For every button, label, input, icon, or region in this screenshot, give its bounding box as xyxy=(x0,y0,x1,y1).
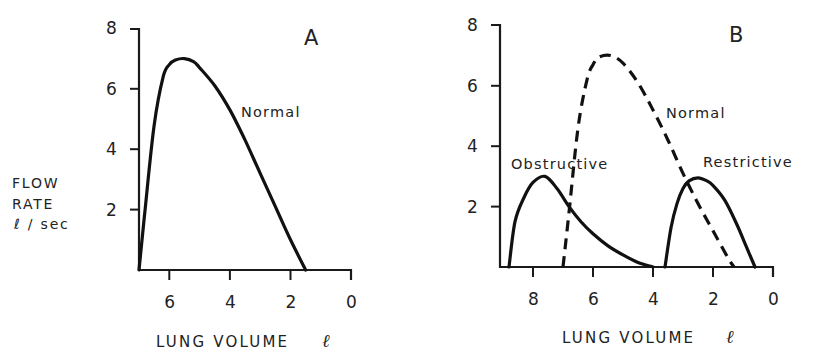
panel-b-axis-lines xyxy=(491,25,773,277)
panel-b: 246886420 B Normal Obstructive Restricti… xyxy=(467,15,793,347)
y-tick-label: 2 xyxy=(467,197,478,217)
flow-volume-figure: FLOW RATE ℓ / sec 24686420 A Normal LUNG… xyxy=(0,0,819,364)
panel-b-obstructive-label: Obstructive xyxy=(511,156,608,172)
y-tick-label: 8 xyxy=(106,18,117,38)
y-tick-label: 4 xyxy=(467,136,478,156)
x-tick-label: 2 xyxy=(708,289,719,309)
panel-a-normal-label: Normal xyxy=(241,104,301,120)
panel-a-curves xyxy=(139,59,306,270)
panel-b-restrictive-label: Restrictive xyxy=(703,154,793,170)
x-tick-label: 4 xyxy=(648,289,659,309)
y-tick-label: 2 xyxy=(106,200,117,220)
panel-b-letter: B xyxy=(729,23,743,47)
y-tick-label: 6 xyxy=(467,76,478,96)
y-axis-title-line-3: ℓ / sec xyxy=(13,216,70,232)
y-axis-title: FLOW RATE ℓ / sec xyxy=(12,175,70,232)
x-tick-label: 8 xyxy=(528,289,539,309)
y-tick-label: 4 xyxy=(106,139,117,159)
panel-b-x-axis-title: LUNG VOLUME xyxy=(562,329,695,347)
x-tick-label: 0 xyxy=(768,289,779,309)
y-axis-title-line-1: FLOW xyxy=(12,175,59,191)
panel-a-x-axis-title: LUNG VOLUME xyxy=(156,333,289,351)
x-tick-label: 6 xyxy=(164,292,175,312)
panel-a: 24686420 A Normal LUNG VOLUME ℓ xyxy=(106,18,357,351)
panel-a-axis-lines xyxy=(130,29,351,280)
panel-a-axes: 24686420 xyxy=(106,18,357,312)
x-tick-label: 0 xyxy=(346,292,357,312)
x-tick-label: 6 xyxy=(588,289,599,309)
y-axis-title-line-2: RATE xyxy=(12,196,54,212)
panel-b-normal-label: Normal xyxy=(666,105,726,121)
panel-b-x-unit: ℓ xyxy=(726,326,734,347)
panel-a-letter: A xyxy=(304,26,319,50)
y-tick-label: 6 xyxy=(106,79,117,99)
panel-a-curve-normal xyxy=(139,59,306,270)
y-tick-label: 8 xyxy=(467,15,478,35)
x-tick-label: 2 xyxy=(286,292,297,312)
panel-b-curve-obstructive xyxy=(509,176,653,267)
panel-a-x-unit: ℓ xyxy=(322,330,330,351)
x-tick-label: 4 xyxy=(225,292,236,312)
